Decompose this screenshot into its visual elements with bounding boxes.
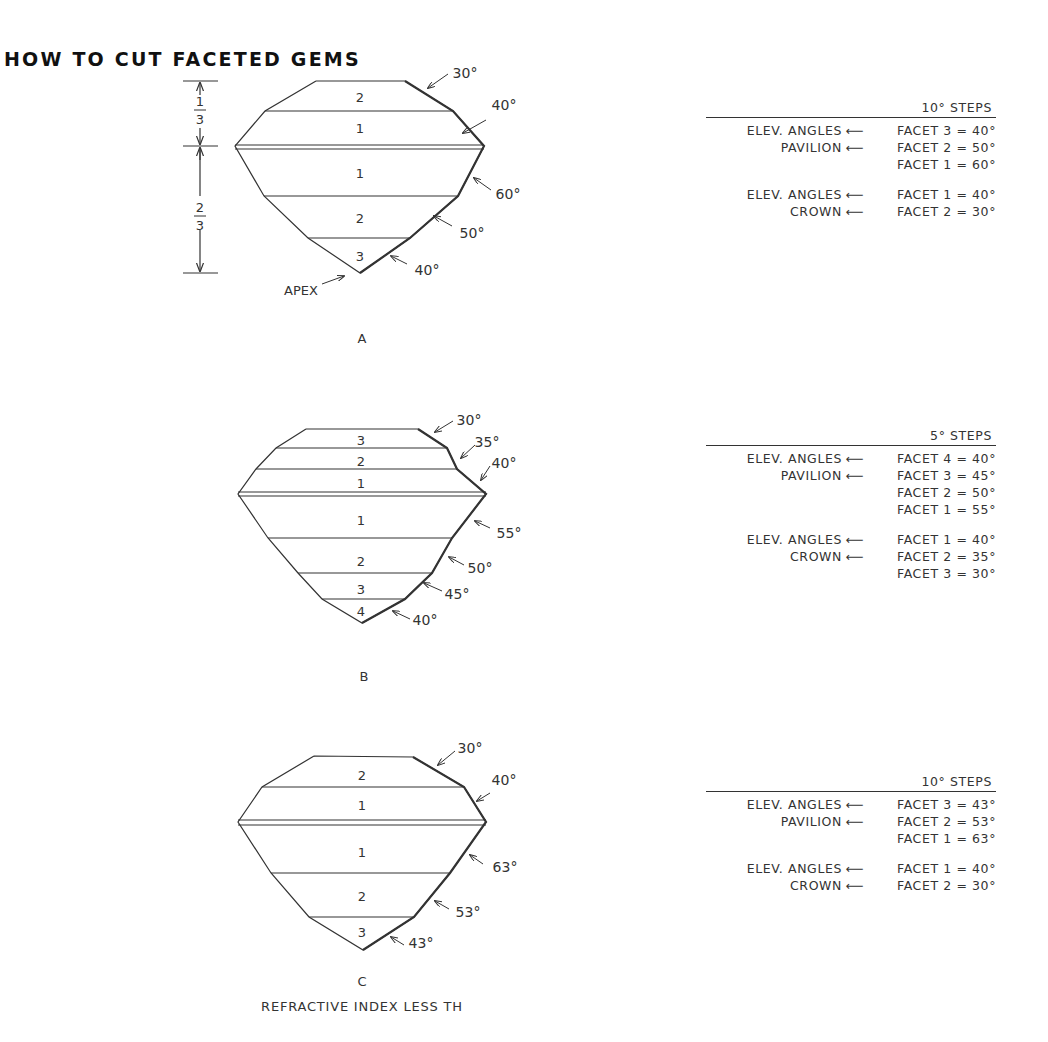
- arrow-left-icon: ⟵: [842, 813, 868, 830]
- row-value: FACET 1 = 60°: [868, 156, 996, 173]
- facet-number: 3: [357, 582, 365, 597]
- angle-label: 30°: [458, 740, 483, 756]
- facet-number: 3: [358, 925, 366, 940]
- arrow-left-icon: ⟵: [842, 450, 868, 467]
- row-value: FACET 2 = 30°: [868, 877, 996, 894]
- row-label: ELEV. ANGLES: [747, 186, 842, 203]
- table-header: 10° STEPS: [706, 100, 996, 118]
- angle-label: 50°: [460, 225, 485, 241]
- table-row: CROWN⟵FACET 2 = 30°: [706, 877, 996, 894]
- angle-label: 40°: [492, 97, 517, 113]
- table-row: FACET 1 = 55°: [706, 501, 996, 518]
- facet-number: 2: [357, 454, 365, 469]
- row-label: ELEV. ANGLES: [747, 796, 842, 813]
- angle-label: 30°: [453, 65, 478, 81]
- table-row: CROWN⟵FACET 2 = 30°: [706, 203, 996, 220]
- row-value: FACET 2 = 50°: [868, 139, 996, 156]
- caption-refractive-index: REFRACTIVE INDEX LESS TH: [261, 999, 463, 1014]
- table-header: 5° STEPS: [706, 428, 996, 446]
- row-label: ELEV. ANGLES: [747, 450, 842, 467]
- facet-number: 1: [358, 798, 366, 813]
- facet-number: 1: [358, 845, 366, 860]
- table-row: ELEV. ANGLES⟵FACET 1 = 40°: [706, 186, 996, 203]
- row-value: FACET 2 = 53°: [868, 813, 996, 830]
- facet-number: 4: [357, 604, 365, 619]
- facet-number: 2: [358, 768, 366, 783]
- row-value: FACET 2 = 35°: [868, 548, 996, 565]
- angle-label: 40°: [492, 772, 517, 788]
- angle-label: 30°: [457, 412, 482, 428]
- angle-label: 63°: [493, 859, 518, 875]
- row-value: FACET 3 = 30°: [868, 565, 996, 582]
- row-label: ELEV. ANGLES: [747, 860, 842, 877]
- angle-table-c: 10° STEPS ELEV. ANGLES⟵FACET 3 = 43° PAV…: [706, 774, 996, 894]
- angle-label: 35°: [475, 434, 500, 450]
- arrow-left-icon: ⟵: [842, 877, 868, 894]
- angle-label: 40°: [415, 262, 440, 278]
- fraction-denominator: 3: [196, 218, 204, 233]
- arrow-left-icon: ⟵: [842, 186, 868, 203]
- facet-number: 1: [356, 121, 364, 136]
- arrow-left-icon: ⟵: [842, 203, 868, 220]
- angle-label: 45°: [445, 586, 470, 602]
- angle-label: 40°: [413, 612, 438, 628]
- row-label: PAVILION: [781, 813, 842, 830]
- facet-number: 2: [356, 90, 364, 105]
- row-label: CROWN: [790, 877, 842, 894]
- row-value: FACET 3 = 40°: [868, 122, 996, 139]
- arrow-left-icon: ⟵: [842, 122, 868, 139]
- arrow-left-icon: ⟵: [842, 531, 868, 548]
- table-row: FACET 3 = 30°: [706, 565, 996, 582]
- facet-number: 1: [357, 476, 365, 491]
- angle-label: 43°: [409, 935, 434, 951]
- facet-number: 2: [356, 211, 364, 226]
- arrow-left-icon: ⟵: [842, 860, 868, 877]
- facet-number: 1: [357, 513, 365, 528]
- fraction-denominator: 3: [196, 112, 204, 127]
- arrow-left-icon: ⟵: [842, 796, 868, 813]
- arrow-left-icon: ⟵: [842, 548, 868, 565]
- table-row: ELEV. ANGLES⟵FACET 1 = 40°: [706, 860, 996, 877]
- angle-label: 50°: [468, 560, 493, 576]
- facet-number: 3: [356, 249, 364, 264]
- angle-label: 53°: [456, 904, 481, 920]
- table-row: PAVILION⟵FACET 2 = 53°: [706, 813, 996, 830]
- row-label: PAVILION: [781, 467, 842, 484]
- table-header: 10° STEPS: [706, 774, 996, 792]
- arrow-left-icon: ⟵: [842, 467, 868, 484]
- row-value: FACET 1 = 55°: [868, 501, 996, 518]
- angle-label: 40°: [492, 455, 517, 471]
- diagram-a: [183, 74, 491, 284]
- diagram-label-b: B: [360, 669, 369, 684]
- diagram-label-c: C: [357, 974, 366, 989]
- row-value: FACET 1 = 63°: [868, 830, 996, 847]
- facet-number: 2: [357, 554, 365, 569]
- table-row: FACET 1 = 60°: [706, 156, 996, 173]
- diagram-label-a: A: [358, 331, 367, 346]
- row-label: ELEV. ANGLES: [747, 122, 842, 139]
- row-label: PAVILION: [781, 139, 842, 156]
- table-row: PAVILION⟵FACET 2 = 50°: [706, 139, 996, 156]
- row-label: CROWN: [790, 548, 842, 565]
- row-value: FACET 1 = 40°: [868, 186, 996, 203]
- table-row: PAVILION⟵FACET 3 = 45°: [706, 467, 996, 484]
- angle-table-b: 5° STEPS ELEV. ANGLES⟵FACET 4 = 40° PAVI…: [706, 428, 996, 582]
- row-value: FACET 3 = 43°: [868, 796, 996, 813]
- angle-label: 55°: [497, 525, 522, 541]
- fraction-one-third: 1: [196, 94, 204, 109]
- table-row: ELEV. ANGLES⟵FACET 1 = 40°: [706, 531, 996, 548]
- facet-number: 1: [356, 166, 364, 181]
- row-label: CROWN: [790, 203, 842, 220]
- table-row: CROWN⟵FACET 2 = 35°: [706, 548, 996, 565]
- table-row: ELEV. ANGLES⟵FACET 3 = 40°: [706, 122, 996, 139]
- table-row: ELEV. ANGLES⟵FACET 4 = 40°: [706, 450, 996, 467]
- row-value: FACET 1 = 40°: [868, 860, 996, 877]
- facet-number: 3: [357, 433, 365, 448]
- table-row: ELEV. ANGLES⟵FACET 3 = 43°: [706, 796, 996, 813]
- arrow-left-icon: ⟵: [842, 139, 868, 156]
- row-label: ELEV. ANGLES: [747, 531, 842, 548]
- row-value: FACET 2 = 30°: [868, 203, 996, 220]
- fraction-two-thirds: 2: [196, 200, 204, 215]
- row-value: FACET 3 = 45°: [868, 467, 996, 484]
- apex-label: APEX: [284, 283, 318, 298]
